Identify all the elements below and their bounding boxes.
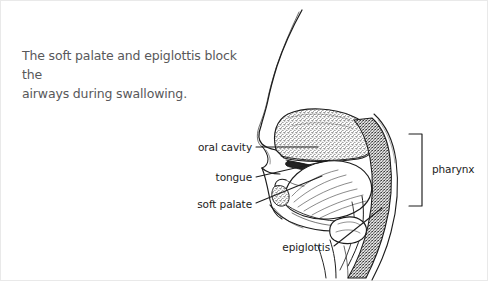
label-pharynx: pharynx	[432, 163, 474, 175]
anatomy-figure: oral cavity tongue soft palate epiglotti…	[0, 0, 489, 282]
label-soft-palate: soft palate	[197, 198, 252, 210]
label-oral-cavity: oral cavity	[198, 141, 252, 153]
pharynx-bracket	[409, 134, 422, 206]
figure-caption: The soft palate and epiglottis block the…	[22, 46, 247, 103]
label-tongue: tongue	[216, 171, 252, 183]
label-epiglottis: epiglottis	[282, 241, 330, 253]
